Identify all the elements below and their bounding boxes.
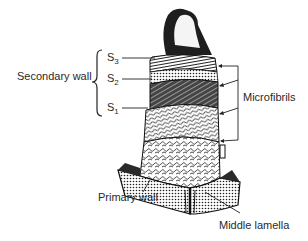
middle-lamella-label: Middle lamella	[219, 219, 289, 231]
s3-label: S3	[107, 51, 119, 66]
cell-wall-diagram	[0, 0, 308, 241]
primary-wall-label: Primary wall	[98, 191, 158, 203]
s3-subscript: 3	[114, 57, 118, 66]
microfibrils-label: Microfibrils	[243, 91, 296, 103]
s1-layer	[144, 104, 219, 142]
cell-top-cap	[163, 9, 212, 55]
s2-subscript: 2	[114, 78, 118, 87]
wall-edge-tab	[220, 145, 225, 158]
s1-subscript: 1	[114, 107, 118, 116]
s1-label: S1	[107, 101, 119, 116]
secondary-wall-label: Secondary wall	[17, 70, 92, 82]
secondary-wall-brace	[92, 50, 102, 116]
s2-label: S2	[107, 72, 119, 87]
microfibrils-bracket	[219, 66, 238, 141]
